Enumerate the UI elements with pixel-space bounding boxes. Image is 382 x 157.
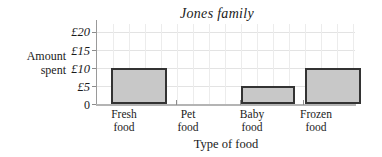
y-tick-label: £15 bbox=[30, 45, 90, 57]
x-tick-label-line1: Baby bbox=[240, 108, 264, 120]
plot-area bbox=[97, 24, 355, 104]
bar-fresh-food bbox=[111, 68, 167, 104]
x-tick-label-line2: food bbox=[216, 121, 288, 134]
x-tick-label-fresh-food: Fresh food bbox=[88, 108, 160, 133]
x-tick-label-pet-food: Pet food bbox=[152, 108, 224, 133]
chart-title: Jones family bbox=[180, 6, 340, 22]
bar-baby-food bbox=[241, 86, 295, 104]
x-tick-label-line1: Fresh bbox=[111, 108, 137, 120]
bar-frozen-food bbox=[305, 68, 361, 104]
x-tick-label-line1: Frozen bbox=[300, 108, 332, 120]
x-tick-label-line2: food bbox=[152, 121, 224, 134]
x-tick-mark bbox=[303, 100, 304, 105]
y-tick-label-text-10: £10 bbox=[71, 62, 90, 76]
x-tick-label-line1: Pet bbox=[181, 108, 196, 120]
y-tick-label: £20 bbox=[30, 26, 90, 38]
y-tick-label: £5 bbox=[30, 81, 90, 93]
x-tick-mark bbox=[240, 100, 241, 105]
x-tick-label-line2: food bbox=[280, 121, 352, 134]
x-axis-title: Type of food bbox=[97, 137, 355, 152]
y-tick-label-group: £20 £15 £10 £5 0 bbox=[28, 0, 90, 157]
bars bbox=[97, 24, 355, 104]
x-tick-label-baby-food: Baby food bbox=[216, 108, 288, 133]
y-tick-label: £10 bbox=[30, 63, 90, 75]
x-tick-label-line2: food bbox=[88, 121, 160, 134]
x-tick-label-frozen-food: Frozen food bbox=[280, 108, 352, 133]
y-tick-label-text-5: £5 bbox=[78, 80, 91, 94]
y-tick-label-text-15: £15 bbox=[71, 44, 90, 58]
y-tick-label-text-20: £20 bbox=[71, 25, 90, 39]
x-axis-line bbox=[96, 104, 356, 106]
x-tick-mark bbox=[176, 100, 177, 105]
y-tick-label: 0 bbox=[30, 99, 90, 111]
bar-chart: Jones family Amount spent £20 £15 £10 £5… bbox=[0, 0, 382, 157]
